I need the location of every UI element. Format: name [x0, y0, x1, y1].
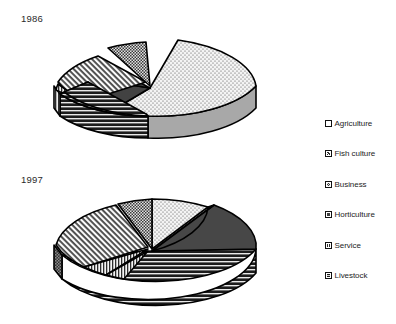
legend-label-livestock: Livestock: [335, 271, 368, 280]
pie-1997-top-slices: [56, 199, 256, 281]
pie-chart-figure: 1986 1997: [0, 0, 396, 324]
legend-item-horticulture[interactable]: Horticulture: [325, 200, 396, 231]
legend-swatch-icon-service: [325, 242, 332, 249]
pie-chart-1986: [28, 22, 268, 152]
legend-label-agriculture: Agriculture: [335, 119, 373, 128]
legend-item-fish-culture[interactable]: Fish culture: [325, 139, 396, 170]
legend-item-service[interactable]: Service: [325, 230, 396, 261]
legend-item-livestock[interactable]: Livestock: [325, 261, 396, 292]
legend-label-horticulture: Horticulture: [335, 210, 375, 219]
pie-1986-top-slices: [56, 40, 256, 116]
pie-chart-1997: [28, 185, 268, 315]
legend-item-agriculture[interactable]: Agriculture: [325, 108, 396, 139]
legend-label-service: Service: [335, 241, 361, 250]
legend-swatch-icon-fish-culture: [325, 150, 332, 157]
legend-swatch-icon-business: [325, 181, 332, 188]
legend-swatch-icon-livestock: [325, 272, 332, 279]
legend-swatch-icon-horticulture: [325, 211, 332, 218]
chart-year-label-1997: 1997: [21, 174, 43, 185]
legend-swatch-icon-agriculture: [325, 120, 332, 127]
legend-label-business: Business: [335, 180, 367, 189]
chart-legend: Agriculture Fish culture Business Hortic…: [325, 108, 396, 291]
legend-item-business[interactable]: Business: [325, 169, 396, 200]
legend-label-fish-culture: Fish culture: [335, 149, 376, 158]
